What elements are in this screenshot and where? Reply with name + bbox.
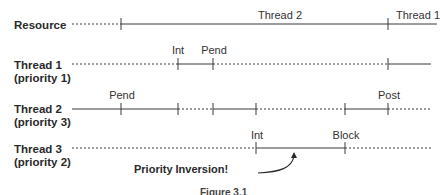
thread2-priority: (priority 3)	[14, 116, 71, 129]
resource-owner-thread1: Thread 1	[396, 9, 440, 21]
row-label-resource: Resource	[14, 19, 66, 32]
thread2-name: Thread 2	[14, 103, 71, 116]
event-thread1-int: Int	[172, 44, 184, 56]
thread3-timeline	[72, 142, 431, 154]
event-thread1-pend: Pend	[201, 44, 227, 56]
thread1-name: Thread 1	[14, 59, 71, 72]
thread1-priority: (priority 1)	[14, 72, 71, 85]
event-thread3-block: Block	[333, 129, 360, 141]
resource-timeline	[72, 18, 437, 30]
event-thread2-pend: Pend	[109, 89, 135, 101]
event-thread3-int: Int	[251, 129, 263, 141]
row-label-thread1: Thread 1 (priority 1)	[14, 59, 71, 85]
thread3-name: Thread 3	[14, 143, 71, 156]
thread3-priority: (priority 2)	[14, 156, 71, 169]
figure-caption: Figure 3.1	[200, 187, 247, 195]
row-label-thread2: Thread 2 (priority 3)	[14, 103, 71, 129]
resource-owner-thread2: Thread 2	[258, 9, 302, 21]
resource-label: Resource	[14, 19, 66, 31]
arrow-icon	[258, 156, 294, 173]
thread2-timeline	[72, 103, 431, 115]
thread1-timeline	[72, 58, 431, 70]
event-thread2-post: Post	[378, 89, 400, 101]
row-label-thread3: Thread 3 (priority 2)	[14, 143, 71, 169]
priority-inversion-annotation: Priority Inversion!	[134, 163, 228, 175]
